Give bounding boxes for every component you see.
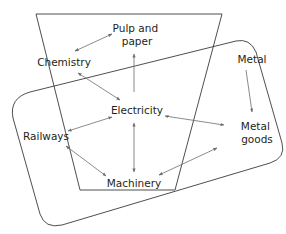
node-metal-goods-line1: Metal [241, 120, 270, 132]
node-pulp-line1: Pulp and [113, 22, 158, 34]
node-metal: Metal [238, 53, 267, 65]
node-machinery: Machinery [107, 177, 161, 189]
node-metal-goods-line2: goods [241, 133, 273, 145]
node-metal-goods: Metal goods [241, 120, 273, 145]
edge-machinery-metalgoods [159, 148, 217, 175]
edge-chemistry-pulp [75, 34, 112, 51]
edge-railways-electricity [68, 117, 112, 131]
node-pulp-line2: paper [122, 35, 153, 47]
node-pulp-and-paper: Pulp and paper [113, 22, 162, 47]
edge-railways-machinery [66, 146, 106, 176]
industry-network-diagram: Pulp and paper Chemistry Metal Electrici… [0, 0, 286, 234]
edge-chemistry-electricity [78, 73, 120, 100]
node-electricity: Electricity [111, 104, 163, 116]
node-chemistry: Chemistry [37, 56, 91, 68]
edge-metal-metalgoods [246, 70, 252, 112]
node-railways: Railways [23, 130, 69, 142]
